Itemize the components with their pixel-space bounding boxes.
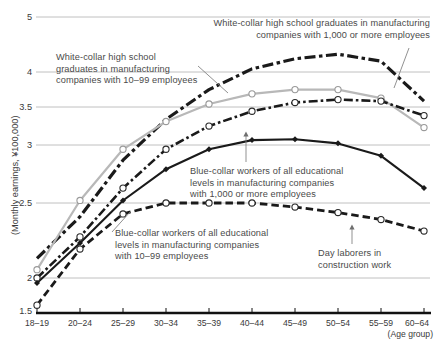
xtick-35-39: 35–39: [187, 318, 231, 328]
data-point-marker: [335, 140, 341, 146]
data-point-marker: [77, 197, 83, 203]
ytick-2: 2: [6, 273, 32, 283]
xtick-25-29: 25–29: [101, 318, 145, 328]
axis-lines: [36, 308, 431, 313]
data-point-marker: [120, 185, 126, 191]
data-point-marker: [335, 97, 341, 103]
ytick-3-5: 3.5: [6, 102, 32, 112]
ytick-1-5: 1.5: [6, 306, 32, 316]
xtick-18-19: 18–19: [15, 318, 59, 328]
y-axis-label: (Monthly earnings, ¥100,000): [10, 115, 20, 235]
data-point-marker: [163, 118, 169, 124]
data-point-marker: [335, 87, 341, 93]
data-point-marker: [163, 146, 169, 152]
xtick-40-44: 40–44: [230, 318, 274, 328]
data-point-marker: [292, 204, 298, 210]
xtick-20-24: 20–24: [58, 318, 102, 328]
data-point-marker: [77, 234, 83, 240]
data-point-marker: [292, 136, 298, 142]
x-axis-label: (Age group): [388, 329, 433, 339]
xtick-45-49: 45–49: [273, 318, 317, 328]
data-point-marker: [249, 137, 255, 143]
data-point-marker: [206, 123, 212, 129]
annotation-day-laborers: Day laborers in construction work: [318, 248, 428, 271]
data-point-marker: [206, 101, 212, 107]
ytick-5: 5: [6, 12, 32, 22]
data-point-marker: [378, 98, 384, 104]
data-point-marker: [421, 113, 427, 119]
annotation-blue-collar-1000: Blue-collar workers of all educational l…: [190, 166, 365, 201]
leader-arrowhead: [349, 225, 354, 230]
data-point-marker: [34, 267, 40, 273]
ytick-4: 4: [6, 67, 32, 77]
data-point-marker: [249, 91, 255, 97]
data-point-marker: [249, 200, 255, 206]
annotation-white-collar-1000: White-collar high school graduates in ma…: [185, 18, 430, 41]
data-point-marker: [249, 108, 255, 114]
data-point-marker: [292, 99, 298, 105]
xtick-50-54: 50–54: [316, 318, 360, 328]
data-point-marker: [77, 246, 83, 252]
data-point-marker: [120, 211, 126, 217]
data-point-marker: [421, 228, 427, 234]
data-point-marker: [34, 302, 40, 308]
data-point-marker: [206, 200, 212, 206]
leader-arrowhead: [243, 132, 248, 137]
data-point-marker: [378, 216, 384, 222]
annotation-white-collar-10-99: White-collar high school graduates in ma…: [56, 52, 236, 87]
xtick-30-34: 30–34: [144, 318, 188, 328]
data-point-marker: [292, 87, 298, 93]
data-point-marker: [421, 124, 427, 130]
xtick-60-64: 60–64: [395, 318, 437, 328]
annotation-blue-collar-10-99: Blue-collar workers of all educational l…: [115, 228, 295, 263]
data-point-marker: [163, 200, 169, 206]
leader-line-0: [394, 48, 409, 88]
data-point-marker: [335, 209, 341, 215]
data-point-marker: [120, 146, 126, 152]
